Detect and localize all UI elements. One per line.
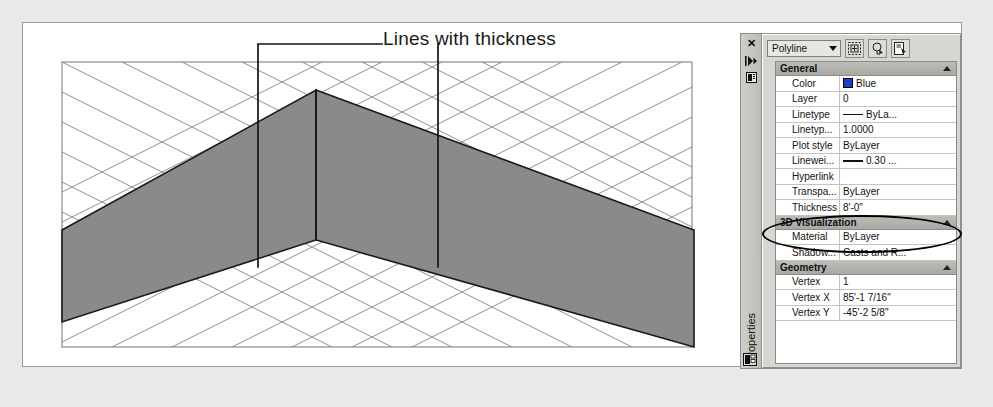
category-header[interactable]: 3D Visualization (776, 216, 956, 230)
property-value[interactable]: 8'-0" (840, 200, 956, 215)
property-label: Color (776, 76, 840, 91)
pick-point-button[interactable] (891, 39, 910, 58)
chevron-down-icon (829, 46, 837, 51)
callout-label: Lines with thickness (383, 28, 556, 50)
isometric-drawing (22, 22, 722, 367)
property-value-text: 8'-0" (843, 202, 863, 213)
property-row[interactable]: Hyperlink (776, 169, 956, 185)
quick-select-icon (848, 42, 861, 55)
property-value-text: -45'-2 5/8" (843, 307, 888, 318)
property-value[interactable]: ByLayer (840, 230, 956, 245)
category-label: General (780, 63, 817, 74)
properties-grid[interactable]: GeneralColorBlueLayer0LinetypeByLa...Lin… (775, 61, 957, 364)
property-value[interactable]: 1.0000 (840, 123, 956, 138)
property-value-text: ByLayer (843, 186, 880, 197)
properties-icon[interactable] (743, 352, 757, 365)
property-value[interactable] (840, 169, 956, 184)
property-label: Shadow... (776, 245, 840, 260)
property-label: Linetype (776, 107, 840, 122)
property-row[interactable]: Linewei...0.30 ... (776, 154, 956, 170)
property-label: Hyperlink (776, 169, 840, 184)
property-value-text: 1.0000 (843, 124, 874, 135)
property-value[interactable]: Blue (840, 76, 956, 91)
property-value[interactable]: Casts and R... (840, 245, 956, 260)
category-header[interactable]: Geometry (776, 261, 956, 275)
property-label: Vertex (776, 275, 840, 290)
palette-menu-icon[interactable] (743, 70, 759, 85)
property-value-text: ByLayer (843, 140, 880, 151)
category-label: Geometry (780, 262, 827, 273)
lineweight-preview-icon (843, 160, 863, 162)
palette-title-rail: ✕ Properties (741, 34, 762, 368)
property-row[interactable]: Linetyp...1.0000 (776, 123, 956, 139)
property-label: Linewei... (776, 154, 840, 169)
property-row[interactable]: ColorBlue (776, 76, 956, 92)
property-value[interactable]: ByLa... (840, 107, 956, 122)
object-type-value: Polyline (772, 43, 807, 54)
property-value-text: 0.30 ... (866, 155, 897, 166)
property-label: Linetyp... (776, 123, 840, 138)
property-row[interactable]: LinetypeByLa... (776, 107, 956, 123)
property-value[interactable]: 1 (840, 275, 956, 290)
property-label: Thickness (776, 200, 840, 215)
property-row[interactable]: Plot styleByLayer (776, 138, 956, 154)
properties-glyph-icon (743, 353, 757, 366)
property-label: Layer (776, 92, 840, 107)
drawing-canvas[interactable] (22, 22, 722, 367)
chevron-up-icon[interactable] (943, 265, 951, 270)
property-value-text: 85'-1 7/16" (843, 292, 891, 303)
property-label: Material (776, 230, 840, 245)
property-row[interactable]: Shadow...Casts and R... (776, 245, 956, 261)
property-value[interactable]: 0.30 ... (840, 154, 956, 169)
object-type-dropdown[interactable]: Polyline (767, 40, 841, 57)
property-label: Vertex Y (776, 306, 840, 321)
property-value[interactable]: ByLayer (840, 185, 956, 200)
property-row[interactable]: Transpa...ByLayer (776, 185, 956, 201)
property-row[interactable]: Thickness8'-0" (776, 200, 956, 216)
property-value-text: Blue (856, 78, 876, 89)
property-row[interactable]: MaterialByLayer (776, 230, 956, 246)
property-value[interactable]: 85'-1 7/16" (840, 290, 956, 305)
property-label: Vertex X (776, 290, 840, 305)
palette-toolbar: Polyline (763, 35, 960, 61)
properties-palette[interactable]: ✕ Properties (740, 33, 962, 369)
property-row[interactable]: Layer0 (776, 92, 956, 108)
color-swatch-icon (843, 78, 853, 88)
category-label: 3D Visualization (780, 217, 857, 228)
property-value-text: Casts and R... (843, 247, 906, 258)
property-label: Transpa... (776, 185, 840, 200)
property-row[interactable]: Vertex1 (776, 275, 956, 291)
select-objects-button[interactable] (868, 39, 887, 58)
select-objects-icon (871, 42, 884, 55)
auto-hide-arrows-icon (745, 56, 758, 66)
property-label: Plot style (776, 138, 840, 153)
property-value[interactable]: ByLayer (840, 138, 956, 153)
property-value-text: ByLayer (843, 231, 880, 242)
pick-point-icon (894, 42, 907, 55)
property-value[interactable]: 0 (840, 92, 956, 107)
property-value[interactable]: -45'-2 5/8" (840, 306, 956, 321)
auto-hide-icon[interactable] (743, 53, 759, 68)
property-value-text: 0 (843, 93, 849, 104)
palette-body: Polyline (762, 34, 961, 368)
linetype-preview-icon (843, 114, 863, 115)
property-value-text: 1 (843, 276, 849, 287)
category-header[interactable]: General (776, 62, 956, 76)
property-value-text: ByLa... (866, 109, 897, 120)
chevron-up-icon[interactable] (943, 220, 951, 225)
property-row[interactable]: Vertex Y-45'-2 5/8" (776, 306, 956, 322)
close-icon[interactable]: ✕ (743, 36, 759, 51)
property-row[interactable]: Vertex X85'-1 7/16" (776, 290, 956, 306)
menu-glyph-icon (746, 72, 757, 83)
quick-select-button[interactable] (845, 39, 864, 58)
chevron-up-icon[interactable] (943, 66, 951, 71)
